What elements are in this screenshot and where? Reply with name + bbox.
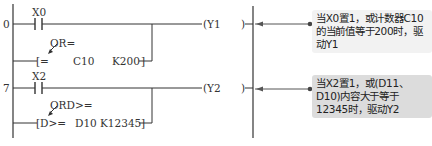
step-number: 0 [3,18,10,30]
compare-operand-1: C10 [73,55,94,67]
compare-operand-2: K200 [112,55,140,67]
compare-instruction-label: ORD>= [50,99,93,111]
compare-instruction-label: OR= [50,37,75,49]
arrow-head-icon [256,22,263,27]
compare-open: [= [36,55,49,67]
coil-open: (Y1 [203,18,221,30]
compare-operand-1: D10 [75,117,97,129]
coil-close: ) [241,18,245,30]
compare-operand-2: K12345 [100,117,141,129]
compare-close: ] [141,55,145,67]
annotation-rung-7: 当X2置1，或(D11、D10)内容大于等于12345时，驱动Y2 [312,75,432,118]
arrow-head-icon [256,87,263,92]
coil-open: (Y2 [203,82,221,94]
contact-label: X2 [32,70,46,82]
contact-label: X0 [32,6,46,18]
annotation-rung-0: 当X0置1，或计数器C10的当前值等于200时，驱动Y1 [312,10,432,53]
compare-close: ] [141,117,145,129]
coil-close: ) [241,82,245,94]
compare-open: [D>= [36,117,66,129]
step-number: 7 [3,82,10,94]
